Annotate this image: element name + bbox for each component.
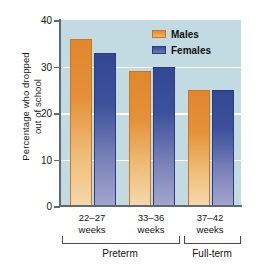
bar-females-22-27	[94, 53, 116, 207]
bar-males-37-42	[188, 90, 210, 206]
legend-item-males: Males	[152, 27, 211, 41]
bar-chart: Percentage who dropped out of school 40 …	[0, 0, 255, 274]
bar-females-37-42	[212, 90, 234, 206]
x-tick-label-22-27: 22–27 weeks	[63, 212, 121, 236]
y-tick-label-0: 0	[12, 201, 52, 212]
y-tick-0	[54, 206, 60, 208]
bar-males-22-27	[70, 39, 92, 206]
x-tick-label-33-36: 33–36 weeks	[122, 212, 180, 236]
legend-swatch-males-icon	[152, 30, 166, 38]
legend-swatch-females-icon	[152, 46, 166, 54]
y-tick-40	[54, 20, 60, 22]
bar-females-33-36	[153, 67, 175, 207]
group-label-fullterm: Full-term	[180, 248, 244, 259]
y-tick-30	[54, 67, 60, 69]
y-tick-label-10: 10	[12, 154, 52, 165]
legend-label-males: Males	[171, 29, 199, 40]
x-tick-label-37-42: 37–42 weeks	[181, 212, 239, 236]
y-tick-10	[54, 160, 60, 162]
y-tick-20	[54, 113, 60, 115]
bracket-fullterm	[184, 236, 241, 244]
bracket-preterm	[62, 236, 180, 244]
legend: Males Females	[152, 27, 211, 59]
bar-males-33-36	[129, 71, 151, 206]
y-tick-label-30: 30	[12, 61, 52, 72]
x-axis-line	[59, 205, 242, 207]
plot-area	[60, 20, 241, 206]
group-label-preterm: Preterm	[62, 248, 178, 259]
legend-label-females: Females	[171, 45, 211, 56]
legend-item-females: Females	[152, 43, 211, 57]
y-tick-label-20: 20	[12, 108, 52, 119]
y-tick-label-40: 40	[12, 15, 52, 26]
